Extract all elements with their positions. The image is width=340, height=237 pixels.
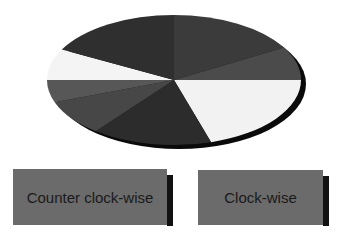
pie-chart-graphic	[0, 0, 340, 160]
counter-clockwise-label: Counter clock-wise	[27, 189, 154, 206]
rotate-counter-clockwise-button[interactable]: Counter clock-wise	[13, 169, 167, 225]
counter-clockwise-button-shadow	[167, 175, 173, 226]
rotatable-pie-chart[interactable]	[0, 0, 340, 160]
clockwise-button-shadow	[323, 176, 329, 226]
rotate-clockwise-button[interactable]: Clock-wise	[198, 170, 323, 225]
clockwise-label: Clock-wise	[224, 189, 297, 206]
